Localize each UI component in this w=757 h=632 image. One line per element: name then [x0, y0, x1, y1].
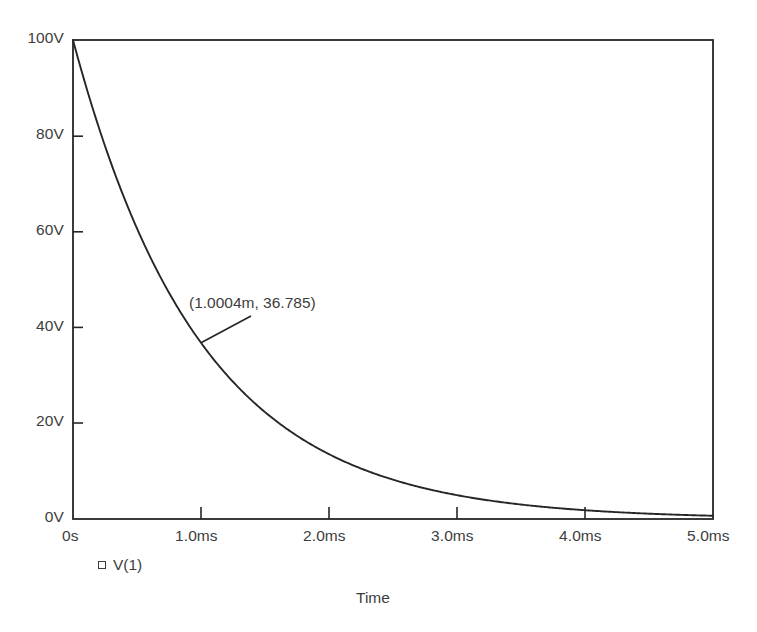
y-tick-label-20v: 20V: [0, 412, 64, 430]
legend-item-label-v1[interactable]: V(1): [113, 556, 142, 574]
x-tick-label-2ms: 2.0ms: [303, 527, 346, 545]
x-axis-title: Time: [356, 589, 390, 607]
y-tick-label-60v: 60V: [0, 221, 64, 239]
x-tick-label-0s: 0s: [62, 527, 79, 545]
leader-line-segment: [201, 316, 251, 343]
x-tick-label-3ms: 3.0ms: [431, 527, 474, 545]
cursor-annotation-label: (1.0004m, 36.785): [189, 294, 316, 312]
y-tick-label-40v: 40V: [0, 317, 64, 335]
annotation-leader-line: [201, 316, 251, 343]
x-tick-label-5ms: 5.0ms: [687, 527, 730, 545]
x-tick-label-4ms: 4.0ms: [559, 527, 602, 545]
spice-waveform-plot: 100V 80V 60V 40V 20V 0V 0s 1.0ms 2.0ms 3…: [0, 0, 757, 632]
x-axis-ticks: [201, 507, 585, 519]
y-tick-label-100v: 100V: [0, 29, 64, 47]
y-tick-label-0v: 0V: [0, 508, 64, 526]
plot-frame: [73, 40, 713, 519]
plot-border: [73, 40, 713, 519]
legend-marker-square-icon: [98, 561, 106, 569]
plot-canvas: [0, 0, 757, 632]
y-axis-ticks: [73, 136, 83, 423]
x-tick-label-1ms: 1.0ms: [175, 527, 218, 545]
data-curve-v1: [73, 40, 713, 516]
y-tick-label-80v: 80V: [0, 125, 64, 143]
legend: V(1): [98, 556, 142, 574]
